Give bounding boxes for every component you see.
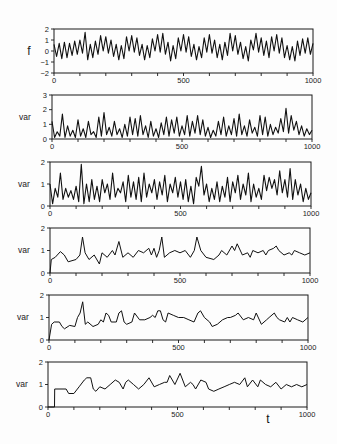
- y-axis-label-var: var: [16, 379, 28, 389]
- x-tick-label: 1000: [299, 410, 316, 419]
- y-tick-label: 2: [43, 105, 47, 114]
- panel-var-5: var t 05001000012: [16, 358, 315, 426]
- panel-f: f 05001000−2−1012: [27, 25, 321, 85]
- y-tick-label: 2: [41, 158, 45, 167]
- x-tick-label: 500: [172, 343, 185, 352]
- data-series-line: [52, 108, 312, 137]
- y-tick-label: 1: [45, 36, 49, 45]
- x-tick-label: 1000: [303, 209, 320, 218]
- y-tick-label: 0: [41, 202, 45, 211]
- x-tick-label: 500: [174, 276, 187, 285]
- panel-var-2: var 05001000012: [18, 158, 319, 218]
- x-tick-label: 0: [47, 343, 51, 352]
- y-axis-label-var: var: [18, 179, 30, 189]
- y-tick-label: 1: [39, 380, 43, 389]
- y-tick-label: 0: [43, 135, 47, 144]
- data-series-line: [50, 164, 311, 204]
- y-tick-label: 0: [41, 269, 45, 278]
- y-axis-label-var: var: [17, 312, 29, 322]
- x-tick-label: 0: [48, 276, 52, 285]
- data-series-line: [49, 302, 308, 340]
- plot-frame: [50, 228, 310, 273]
- x-tick-label: 0: [50, 142, 54, 151]
- y-axis-label-f: f: [27, 44, 31, 58]
- x-tick-label: 500: [171, 410, 184, 419]
- plot-frame: [48, 362, 307, 407]
- y-tick-label: −2: [40, 69, 49, 78]
- y-tick-label: 0: [45, 47, 49, 56]
- data-series-line: [48, 373, 307, 407]
- data-series-line: [54, 32, 313, 61]
- y-tick-label: 2: [40, 291, 44, 300]
- y-tick-label: 3: [43, 91, 47, 100]
- y-axis-label-var: var: [19, 112, 31, 122]
- panel-var-1: var 050010000123: [19, 91, 320, 151]
- x-tick-label: 0: [46, 410, 50, 419]
- y-tick-label: −1: [40, 58, 49, 67]
- y-tick-label: 2: [41, 224, 45, 233]
- y-tick-label: 0: [39, 403, 43, 412]
- data-series-line: [50, 237, 310, 273]
- x-tick-label: 500: [174, 209, 187, 218]
- y-tick-label: 1: [41, 246, 45, 255]
- x-tick-label: 1000: [302, 276, 319, 285]
- y-tick-label: 1: [40, 313, 44, 322]
- panel-var-4: var 05001000012: [17, 291, 316, 352]
- stacked-time-series-plot: f 05001000−2−1012 var 050010000123 var 0…: [0, 0, 337, 444]
- y-tick-label: 2: [39, 358, 43, 367]
- x-tick-label: 0: [48, 209, 52, 218]
- x-tick-label: 0: [52, 76, 56, 85]
- y-tick-label: 1: [41, 180, 45, 189]
- x-tick-label: 1000: [304, 142, 321, 151]
- y-axis-label-var: var: [18, 245, 30, 255]
- y-tick-label: 2: [45, 25, 49, 34]
- x-tick-label: 1000: [305, 76, 322, 85]
- y-tick-label: 1: [43, 120, 47, 129]
- x-axis-label-t: t: [266, 412, 270, 426]
- panel-var-3: var 05001000012: [18, 224, 318, 285]
- figure: f 05001000−2−1012 var 050010000123 var 0…: [0, 0, 337, 444]
- x-tick-label: 1000: [300, 343, 317, 352]
- y-tick-label: 0: [40, 336, 44, 345]
- x-tick-label: 500: [177, 76, 190, 85]
- x-tick-label: 500: [176, 142, 189, 151]
